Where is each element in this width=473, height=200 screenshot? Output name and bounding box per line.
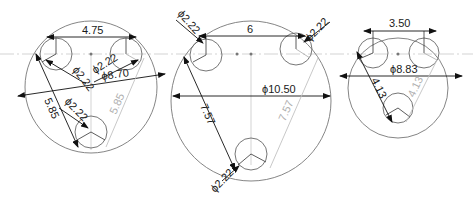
view-middle: 6 ϕ10.50 7.57 7.57 ϕ2.22 ϕ2.22 ϕ2.22 (171, 7, 331, 194)
dim-outer-diameter: ϕ8.83 (390, 63, 418, 75)
dim-hole-diameter: ϕ2.22 (303, 15, 331, 43)
view-left: 4.75 ϕ8.70 5.85 5.85 ϕ2.22 ϕ2.22 ϕ2.22 (18, 21, 165, 153)
view-right: 3.50 ϕ8.83 4.13 4.13 (340, 17, 462, 138)
dim-side-length: 7.57 (198, 102, 218, 126)
dim-hole-spacing: 3.50 (389, 17, 410, 29)
dim-side-length-ghost: 4.13 (405, 74, 425, 99)
dim-side-length: 4.13 (369, 76, 389, 101)
dim-side-length-ghost: 7.57 (276, 98, 296, 122)
technical-drawing: 4.75 ϕ8.70 5.85 5.85 ϕ2.22 ϕ2.22 ϕ2.22 (0, 0, 473, 200)
dim-hole-spacing: 6 (247, 23, 253, 35)
dim-hole-spacing: 4.75 (82, 24, 103, 36)
dim-outer-diameter: ϕ10.50 (262, 83, 296, 95)
center-point (90, 53, 93, 56)
dim-hole-diameter: ϕ2.22 (63, 95, 91, 123)
dim-side-length-ghost: 5.85 (107, 91, 127, 115)
